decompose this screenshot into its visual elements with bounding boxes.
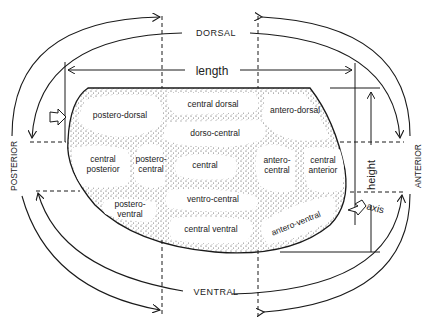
posterior-pointer-icon bbox=[50, 109, 66, 125]
region-antero-central-2: central bbox=[264, 165, 290, 175]
region-antero-dorsal: antero-dorsal bbox=[270, 105, 320, 115]
axis-pointer-icon bbox=[348, 200, 366, 215]
region-central-ventral: central ventral bbox=[184, 224, 237, 234]
region-postero-central-1: postero- bbox=[135, 154, 166, 164]
region-central-posterior-2: posterior bbox=[86, 164, 119, 174]
region-ventro-central: ventro-central bbox=[187, 194, 239, 204]
region-central-posterior-1: central bbox=[90, 154, 116, 164]
region-dorso-central: dorso-central bbox=[190, 128, 240, 138]
region-central-anterior-2: anterior bbox=[309, 165, 338, 175]
label-posterior: POSTERIOR bbox=[9, 141, 19, 191]
region-postero-ventral-1: postero- bbox=[114, 199, 145, 209]
label-axis: axis bbox=[365, 200, 385, 215]
region-antero-central-1: antero- bbox=[264, 155, 291, 165]
region-postero-central-2: central bbox=[138, 164, 164, 174]
region-central-dorsal: central dorsal bbox=[187, 99, 238, 109]
region-central-anterior-1: central bbox=[310, 155, 336, 165]
region-postero-ventral-2: ventral bbox=[117, 209, 143, 219]
label-ventral: VENTRAL bbox=[193, 287, 238, 297]
scale-regions-diagram: postero-dorsal central dorsal antero-dor… bbox=[0, 0, 434, 328]
label-height: height bbox=[365, 160, 377, 190]
label-dorsal: DORSAL bbox=[196, 28, 236, 38]
region-central: central bbox=[192, 160, 218, 170]
region-postero-dorsal: postero-dorsal bbox=[93, 110, 147, 120]
label-anterior: ANTERIOR bbox=[413, 144, 423, 188]
label-length: length bbox=[196, 64, 229, 78]
